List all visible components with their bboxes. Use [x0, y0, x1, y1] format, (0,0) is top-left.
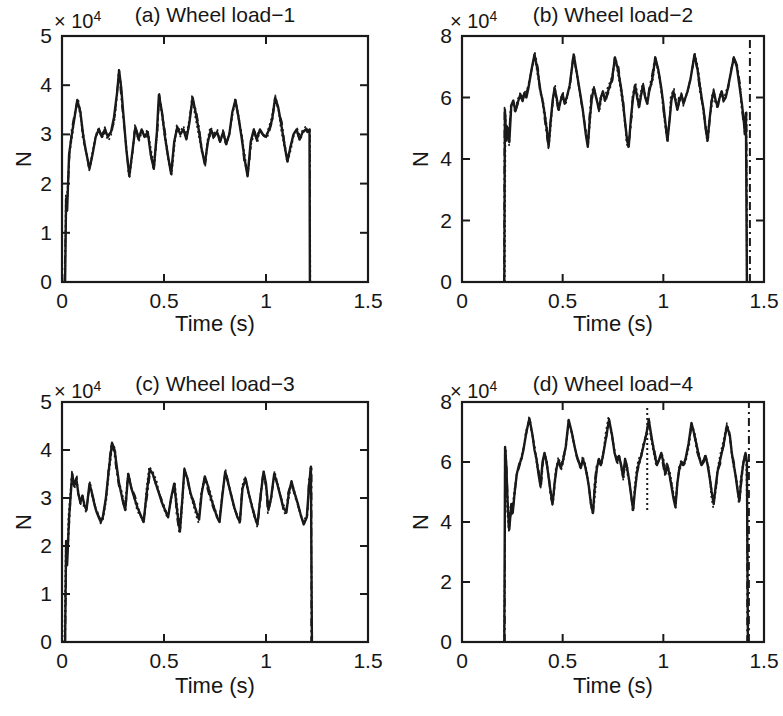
subplot-title: (d) Wheel load−4	[460, 372, 766, 396]
subplot-title: (b) Wheel load−2	[460, 3, 766, 27]
subplot-wheel-load-2: 00.511.502468 × 104 (b) Wheel load−2 N T…	[391, 0, 783, 348]
y-tick-label: 4	[40, 73, 52, 96]
series-solid	[65, 70, 310, 282]
x-tick-label: 1	[657, 649, 669, 672]
x-tick-label: 0	[56, 649, 68, 672]
series-dotted	[65, 69, 310, 283]
x-axis-label: Time (s)	[62, 673, 368, 699]
y-tick-label: 3	[40, 486, 52, 509]
x-tick-label: 0.5	[149, 649, 178, 672]
y-tick-label: 0	[40, 630, 52, 653]
subplot-wheel-load-4: 00.511.502468 × 104 (d) Wheel load−4 N T…	[391, 360, 783, 716]
subplot-title: (c) Wheel load−3	[62, 372, 368, 396]
x-tick-label: 1	[260, 649, 272, 672]
x-tick-label: 1.5	[353, 289, 382, 312]
plot-area-c: 00.511.5012345	[0, 360, 391, 716]
y-axis-label: N	[11, 514, 37, 530]
y-tick-label: 2	[440, 209, 452, 232]
x-tick-label: 0.5	[548, 649, 577, 672]
y-tick-label: 4	[40, 438, 52, 461]
x-tick-label: 1	[657, 289, 669, 312]
x-tick-label: 0	[56, 289, 68, 312]
x-tick-label: 0.5	[548, 289, 577, 312]
y-axis-label: N	[408, 151, 434, 167]
y-axis-label: N	[11, 151, 37, 167]
plot-area-a: 00.511.5012345	[0, 0, 391, 348]
x-axis-label: Time (s)	[460, 673, 766, 699]
y-tick-label: 4	[440, 510, 452, 533]
y-tick-label: 6	[440, 450, 452, 473]
x-tick-label: 0.5	[149, 289, 178, 312]
series-solid	[504, 419, 748, 643]
y-tick-label: 0	[440, 630, 452, 653]
series-dotted	[504, 416, 748, 642]
subplot-title: (a) Wheel load−1	[62, 3, 368, 27]
y-tick-label: 5	[40, 24, 52, 47]
x-axis-label: Time (s)	[62, 311, 368, 337]
y-tick-label: 4	[440, 147, 452, 170]
series-dash-dot	[505, 417, 747, 642]
axes-box	[62, 36, 368, 282]
series-dotted	[64, 444, 312, 642]
x-tick-label: 1.5	[749, 649, 778, 672]
y-tick-label: 2	[440, 570, 452, 593]
y-axis-label: N	[408, 514, 434, 530]
x-tick-label: 0	[456, 289, 468, 312]
y-tick-label: 0	[440, 270, 452, 293]
y-tick-label: 2	[40, 534, 52, 557]
figure-wheel-loads: 00.511.5012345 × 104 (a) Wheel load−1 N …	[0, 0, 783, 716]
x-tick-label: 1.5	[749, 289, 778, 312]
y-tick-label: 0	[40, 270, 52, 293]
y-tick-label: 2	[40, 172, 52, 195]
plot-area-d: 00.511.502468	[391, 360, 783, 716]
x-tick-label: 1	[260, 289, 272, 312]
axes-box	[62, 402, 368, 642]
subplot-wheel-load-1: 00.511.5012345 × 104 (a) Wheel load−1 N …	[0, 0, 391, 348]
y-tick-label: 1	[40, 221, 52, 244]
x-tick-label: 0	[456, 649, 468, 672]
subplot-wheel-load-3: 00.511.5012345 × 104 (c) Wheel load−3 N …	[0, 360, 391, 716]
plot-area-b: 00.511.502468	[391, 0, 783, 348]
x-axis-label: Time (s)	[460, 311, 766, 337]
y-tick-label: 1	[40, 582, 52, 605]
x-tick-label: 1.5	[353, 649, 382, 672]
y-tick-label: 6	[440, 86, 452, 109]
y-tick-label: 5	[40, 390, 52, 413]
y-tick-label: 3	[40, 122, 52, 145]
